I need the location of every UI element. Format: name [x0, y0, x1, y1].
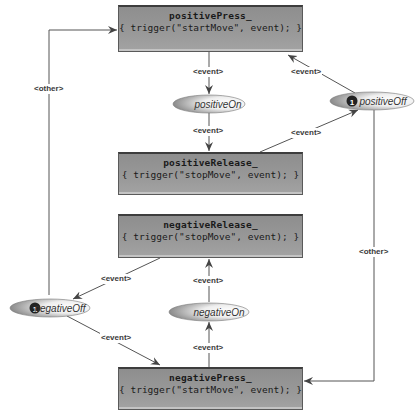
box-name: positivePress_	[119, 10, 302, 21]
box-positive-release[interactable]: positiveRelease_ { trigger("stopMove", e…	[118, 152, 303, 195]
box-negative-press[interactable]: negativePress_ { trigger("startMove", ev…	[118, 367, 303, 410]
box-name: negativeRelease_	[119, 219, 302, 230]
box-action: { trigger("startMove", event); }	[119, 384, 302, 395]
state-positive-on-label: positiveOn	[193, 99, 242, 110]
edge-label: <event>	[192, 276, 224, 286]
edge-poff-to-np	[304, 110, 374, 381]
box-positive-press[interactable]: positivePress_ { trigger("startMove", ev…	[118, 5, 303, 52]
edge-label: <other>	[358, 247, 389, 257]
state-negative-off-label: negativeOff	[34, 303, 86, 314]
state-positive-off[interactable]: 1 positiveOff	[330, 92, 414, 110]
box-negative-release[interactable]: negativeRelease_ { trigger("stopMove", e…	[118, 214, 303, 258]
state-positive-off-label: positiveOff	[358, 96, 407, 107]
box-action: { trigger("stopMove", event); }	[119, 231, 302, 242]
state-diagram: positiveOn 1 positiveOff negativeOn 1 ne…	[0, 0, 420, 413]
edge-label: <event>	[100, 274, 132, 284]
state-negative-off[interactable]: 1 negativeOff	[10, 299, 90, 317]
edge-label: <event>	[192, 67, 224, 77]
state-positive-on[interactable]: positiveOn	[173, 95, 245, 113]
box-name: positiveRelease_	[119, 157, 302, 168]
state-negative-on[interactable]: negativeOn	[169, 303, 249, 321]
edge-label: <event>	[290, 67, 322, 77]
box-action: { trigger("stopMove", event); }	[119, 169, 302, 180]
edge-label: <other>	[33, 84, 64, 94]
edge-label: <event>	[100, 333, 132, 343]
box-action: { trigger("startMove", event); }	[119, 22, 302, 33]
edge-label: <event>	[192, 126, 224, 136]
edge-label: <event>	[290, 128, 322, 138]
box-name: negativePress_	[119, 372, 302, 383]
edge-noff-to-pp	[49, 30, 117, 295]
edge-label: <event>	[192, 343, 224, 353]
state-negative-on-label: negativeOn	[193, 307, 245, 318]
initial-marker: 1	[350, 98, 355, 107]
